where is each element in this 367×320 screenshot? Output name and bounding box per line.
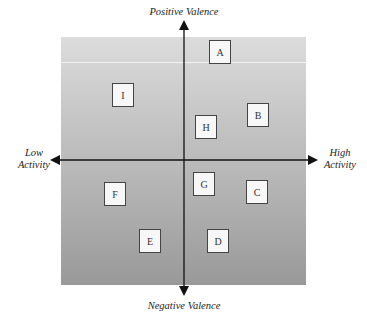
box-e: E [139, 229, 161, 253]
box-i: I [112, 83, 134, 107]
box-h: H [195, 115, 217, 139]
arrow-up-icon [179, 20, 189, 30]
box-a: A [209, 40, 231, 64]
arrow-right-icon [308, 155, 318, 165]
high-activity-line1: High [318, 147, 362, 159]
arrow-down-icon [179, 286, 189, 296]
box-c: C [246, 180, 268, 204]
high-activity-label: High Activity [318, 147, 362, 171]
box-f: F [104, 182, 126, 206]
axes [0, 0, 367, 320]
box-d: D [207, 229, 229, 253]
low-activity-line2: Activity [14, 159, 54, 171]
low-activity-label: Low Activity [14, 147, 54, 171]
high-activity-line2: Activity [318, 159, 362, 171]
box-g: G [193, 172, 215, 196]
positive-valence-label: Positive Valence [134, 6, 234, 18]
box-b: B [247, 103, 269, 127]
negative-valence-label: Negative Valence [132, 300, 236, 312]
low-activity-line1: Low [14, 147, 54, 159]
